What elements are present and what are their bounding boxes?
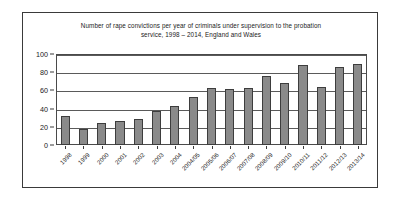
bar bbox=[134, 119, 143, 145]
x-tick-mark bbox=[193, 146, 194, 149]
x-tick-label: 2006/07 bbox=[217, 151, 238, 172]
y-tick-mark bbox=[50, 108, 54, 109]
x-tick-label: 2010/11 bbox=[290, 151, 310, 171]
chart-figure: Number of rape convictions per year of c… bbox=[22, 12, 378, 188]
chart-title-line-2: service, 1998 – 2014, England and Wales bbox=[37, 30, 365, 39]
bar bbox=[298, 65, 307, 145]
x-tick-mark bbox=[212, 146, 213, 149]
x-tick-mark bbox=[266, 146, 267, 149]
y-tick-label: 100 bbox=[36, 50, 48, 59]
x-tick-label: 2002 bbox=[132, 151, 147, 166]
bar bbox=[61, 116, 70, 145]
y-tick-mark bbox=[50, 145, 54, 146]
y-tick-label: 20 bbox=[40, 122, 48, 131]
y-tick-mark bbox=[50, 72, 54, 73]
x-axis: 19981999200020012002200320042004/052005/… bbox=[56, 146, 367, 190]
y-axis: 020406080100 bbox=[23, 54, 54, 145]
y-tick-mark bbox=[50, 126, 54, 127]
x-tick-label: 2008/09 bbox=[254, 151, 275, 172]
x-tick-mark bbox=[358, 146, 359, 149]
bar bbox=[244, 88, 253, 145]
x-tick-label: 2005/06 bbox=[199, 151, 220, 172]
x-tick-mark bbox=[83, 146, 84, 149]
bar bbox=[335, 67, 344, 145]
y-tick-label: 80 bbox=[40, 68, 48, 77]
x-tick-label: 2012/13 bbox=[327, 151, 348, 172]
x-tick-label: 1999 bbox=[77, 151, 92, 166]
y-tick-mark bbox=[50, 54, 54, 55]
bar bbox=[280, 83, 289, 145]
y-tick-label: 40 bbox=[40, 104, 48, 113]
y-tick-label: 60 bbox=[40, 86, 48, 95]
bar bbox=[97, 123, 106, 145]
y-tick-label: 0 bbox=[44, 141, 48, 150]
bar bbox=[262, 76, 271, 145]
x-tick-label: 1998 bbox=[58, 151, 73, 166]
bars-layer bbox=[56, 54, 367, 145]
bar bbox=[152, 111, 161, 145]
x-tick-mark bbox=[285, 146, 286, 149]
x-tick-mark bbox=[65, 146, 66, 149]
x-tick-label: 2004 bbox=[168, 151, 183, 166]
bar bbox=[225, 89, 234, 145]
x-tick-mark bbox=[248, 146, 249, 149]
x-tick-mark bbox=[321, 146, 322, 149]
x-tick-mark bbox=[157, 146, 158, 149]
bar bbox=[115, 121, 124, 145]
x-tick-mark bbox=[303, 146, 304, 149]
x-tick-mark bbox=[120, 146, 121, 149]
bar bbox=[317, 87, 326, 145]
x-tick-mark bbox=[138, 146, 139, 149]
x-tick-label: 2000 bbox=[95, 151, 110, 166]
x-tick-label: 2009/10 bbox=[272, 151, 293, 172]
bar bbox=[189, 97, 198, 145]
chart-title-line-1: Number of rape convictions per year of c… bbox=[37, 21, 365, 30]
bar bbox=[353, 64, 362, 145]
x-tick-label: 2003 bbox=[150, 151, 165, 166]
x-tick-label: 2011/12 bbox=[309, 151, 329, 171]
plot-area bbox=[56, 54, 367, 145]
x-tick-mark bbox=[102, 146, 103, 149]
chart-title: Number of rape convictions per year of c… bbox=[37, 21, 365, 39]
x-tick-label: 2004/05 bbox=[180, 151, 201, 172]
x-tick-mark bbox=[175, 146, 176, 149]
bar bbox=[170, 106, 179, 145]
x-tick-label: 2001 bbox=[113, 151, 128, 166]
x-tick-label: 2007/08 bbox=[235, 151, 256, 172]
bar bbox=[207, 88, 216, 145]
x-tick-mark bbox=[230, 146, 231, 149]
y-tick-mark bbox=[50, 90, 54, 91]
x-tick-label: 2013/14 bbox=[345, 151, 366, 172]
bar bbox=[79, 129, 88, 145]
x-tick-mark bbox=[340, 146, 341, 149]
